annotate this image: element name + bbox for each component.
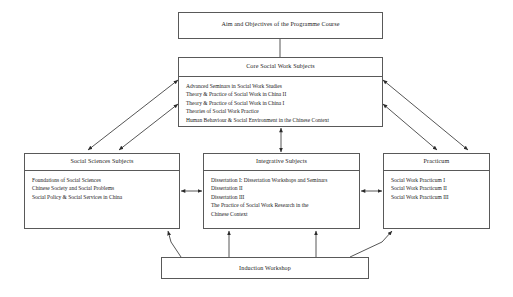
list-item: Human Behaviour & Social Environment in … bbox=[186, 116, 382, 125]
list-item: Chinese Context bbox=[211, 210, 359, 219]
list-item: Theory & Practice of Social Work in Chin… bbox=[186, 90, 382, 99]
box-practicum-title: Practicum bbox=[384, 154, 489, 170]
box-core-social-work-subjects: Core Social Work Subjects Advanced Semin… bbox=[178, 57, 383, 127]
list-item: Social Work Practicum II bbox=[391, 184, 489, 193]
list-item: Social Policy & Social Services in China bbox=[32, 193, 179, 202]
box-practicum: Practicum Social Work Practicum I Social… bbox=[383, 153, 490, 229]
list-item: Dissertation I: Dissertation Workshops a… bbox=[211, 176, 359, 185]
box-induction-workshop: Induction Workshop bbox=[161, 257, 369, 279]
box-aim-title: Aim and Objectives of the Programme Cour… bbox=[179, 13, 382, 33]
box-practicum-list: Social Work Practicum I Social Work Prac… bbox=[384, 171, 489, 206]
list-item: Foundations of Social Sciences bbox=[32, 176, 179, 185]
list-item: Social Work Practicum I bbox=[391, 176, 489, 185]
box-integrative-subjects: Integrative Subjects Dissertation I: Dis… bbox=[203, 153, 360, 229]
connector-core-to-practicum-a bbox=[383, 80, 468, 150]
connector-core-to-practicum-b bbox=[383, 104, 437, 150]
list-item: Theories of Social Work Practice bbox=[186, 107, 382, 116]
list-item: Advanced Seminars in Social Work Studies bbox=[186, 82, 382, 91]
connector-core-to-social-b bbox=[119, 104, 178, 150]
box-induction-title: Induction Workshop bbox=[162, 258, 368, 277]
box-integrative-list: Dissertation I: Dissertation Workshops a… bbox=[204, 171, 359, 223]
list-item: Dissertation III bbox=[211, 193, 359, 202]
box-core-list: Advanced Seminars in Social Work Studies… bbox=[179, 77, 382, 129]
box-social-title: Social Sciences Subjects bbox=[25, 154, 179, 170]
connector-induction-to-social bbox=[168, 231, 181, 257]
list-item: Theory & Practice of Social Work in Chin… bbox=[186, 99, 382, 108]
box-integrative-title: Integrative Subjects bbox=[204, 154, 359, 170]
box-core-title: Core Social Work Subjects bbox=[179, 58, 382, 76]
box-social-list: Foundations of Social Sciences Chinese S… bbox=[25, 171, 179, 206]
connector-induction-to-practicum bbox=[350, 231, 392, 257]
list-item: Chinese Society and Social Problems bbox=[32, 184, 179, 193]
box-aim-and-objectives: Aim and Objectives of the Programme Cour… bbox=[178, 12, 383, 39]
connector-layer bbox=[0, 0, 513, 297]
list-item: Social Work Practicum III bbox=[391, 193, 489, 202]
connector-core-to-social-a bbox=[88, 80, 178, 150]
box-social-sciences-subjects: Social Sciences Subjects Foundations of … bbox=[24, 153, 180, 229]
diagram-canvas: Aim and Objectives of the Programme Cour… bbox=[0, 0, 513, 297]
list-item: Dissertation II bbox=[211, 184, 359, 193]
list-item: The Practice of Social Work Research in … bbox=[211, 201, 359, 210]
